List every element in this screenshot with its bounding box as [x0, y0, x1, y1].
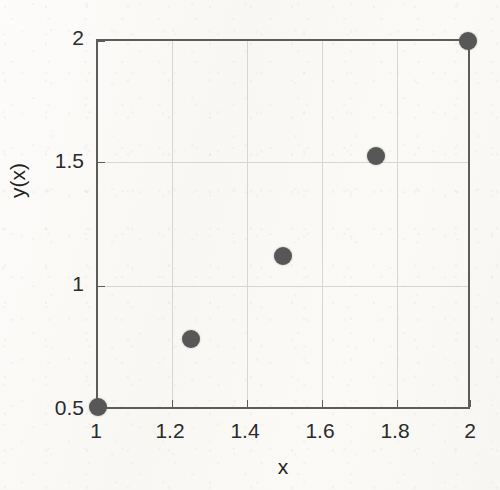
y-tick-label: 1	[72, 273, 84, 294]
plot-area	[96, 39, 470, 409]
data-point	[274, 247, 292, 265]
y-tick-label: 1.5	[55, 150, 84, 171]
gridline-vertical	[322, 41, 323, 407]
y-tick-label: 2	[72, 27, 84, 48]
y-axis-tick-labels: 2 1.5 1 0.5	[0, 0, 84, 490]
gridline-horizontal	[98, 162, 468, 163]
x-tick-label: 1.6	[305, 420, 334, 441]
gridline-horizontal	[98, 286, 468, 287]
y-tick-mark	[98, 162, 105, 163]
x-axis-title: x	[0, 456, 500, 477]
gridline-vertical	[397, 41, 398, 407]
x-tick-label: 1	[90, 420, 102, 441]
x-tick-label: 1.4	[230, 420, 259, 441]
data-point	[182, 330, 200, 348]
x-axis-tick-labels: 1 1.2 1.4 1.6 1.8 2	[0, 420, 500, 450]
y-axis-title-text: y(x)	[6, 163, 29, 198]
gridline-vertical	[247, 41, 248, 407]
x-tick-mark	[470, 400, 471, 407]
x-tick-label: 1.8	[380, 420, 409, 441]
x-tick-mark	[247, 400, 248, 407]
chart-figure: 2 1.5 1 0.5 1 1.2 1.4	[0, 0, 500, 490]
x-tick-label: 2	[464, 420, 476, 441]
gridline-vertical	[172, 41, 173, 407]
y-tick-mark	[98, 286, 105, 287]
data-point	[367, 147, 385, 165]
data-point	[89, 398, 107, 416]
x-axis-title-text: x	[278, 455, 289, 478]
x-tick-mark	[397, 400, 398, 407]
y-tick-mark	[98, 41, 105, 42]
y-axis-title: y(x)	[7, 163, 28, 198]
data-point	[459, 32, 477, 50]
x-tick-label: 1.2	[155, 420, 184, 441]
y-tick-label: 0.5	[55, 397, 84, 418]
x-tick-mark	[322, 400, 323, 407]
x-tick-mark	[172, 400, 173, 407]
